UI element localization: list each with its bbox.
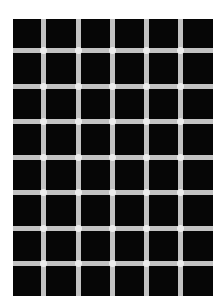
illusion-grid [13, 19, 213, 296]
intersection-dot [40, 47, 47, 54]
intersection-dot [75, 189, 82, 196]
intersection-dot [40, 260, 47, 267]
intersection-dot [75, 154, 82, 161]
intersection-dot [40, 83, 47, 90]
intersection-dot [40, 154, 47, 161]
intersection-dot [75, 118, 82, 125]
intersection-dot [143, 225, 150, 232]
intersection-dot [109, 260, 116, 267]
intersection-dot [143, 118, 150, 125]
intersection-dot [177, 225, 184, 232]
intersection-dot [143, 260, 150, 267]
intersection-dot [143, 47, 150, 54]
intersection-dot [109, 225, 116, 232]
intersection-dot [177, 83, 184, 90]
intersection-dot [109, 154, 116, 161]
intersection-dot [75, 47, 82, 54]
intersection-dot [109, 118, 116, 125]
intersection-dot [143, 154, 150, 161]
intersection-dot [109, 189, 116, 196]
intersection-dot [40, 118, 47, 125]
intersection-dot [177, 118, 184, 125]
intersection-dot [177, 260, 184, 267]
intersection-dot [75, 260, 82, 267]
intersection-dot [177, 154, 184, 161]
intersection-dot [40, 225, 47, 232]
intersection-dot [109, 47, 116, 54]
intersection-dot [143, 83, 150, 90]
intersection-dot [75, 83, 82, 90]
intersection-dot [143, 189, 150, 196]
intersection-dot [177, 189, 184, 196]
intersection-dot [177, 47, 184, 54]
intersection-dot [109, 83, 116, 90]
intersection-dot [75, 225, 82, 232]
intersection-dot [40, 189, 47, 196]
